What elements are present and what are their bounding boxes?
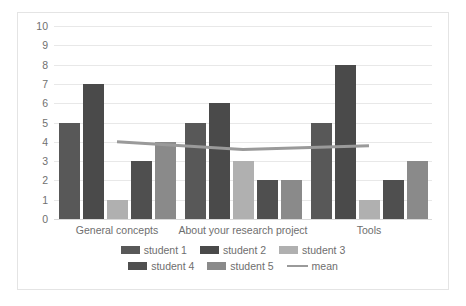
legend-row: student 4student 5mean xyxy=(128,261,338,272)
y-axis-tick-label: 6 xyxy=(42,98,48,109)
legend-color-swatch xyxy=(128,262,147,270)
x-axis-category-label: General concepts xyxy=(76,224,158,236)
y-axis-tick-label: 3 xyxy=(42,156,48,167)
x-axis-category-label: Tools xyxy=(357,224,382,236)
legend-label: student 5 xyxy=(230,261,273,272)
y-axis-tick-label: 4 xyxy=(42,137,48,148)
gridline xyxy=(54,219,432,220)
legend-label: student 4 xyxy=(151,261,194,272)
legend-row: student 1student 2student 3 xyxy=(121,245,346,256)
legend-item[interactable]: student 1 xyxy=(121,245,187,256)
legend-label: student 2 xyxy=(223,245,266,256)
legend-item[interactable]: mean xyxy=(287,261,338,272)
legend-color-swatch xyxy=(200,246,219,254)
legend-item[interactable]: student 2 xyxy=(200,245,266,256)
legend-color-swatch xyxy=(121,246,140,254)
y-axis-tick-label: 7 xyxy=(42,79,48,90)
legend-item[interactable]: student 3 xyxy=(279,245,345,256)
x-axis-category-label: About your research project xyxy=(179,224,308,236)
y-axis-tick-label: 0 xyxy=(42,214,48,225)
legend-item[interactable]: student 4 xyxy=(128,261,194,272)
legend-color-swatch xyxy=(207,262,226,270)
y-axis-tick-label: 1 xyxy=(42,194,48,205)
plot-area: 012345678910 xyxy=(54,26,432,219)
legend-label: student 3 xyxy=(302,245,345,256)
legend-color-swatch xyxy=(279,246,298,254)
chart-container: 012345678910 General conceptsAbout your … xyxy=(17,12,449,290)
legend-label: mean xyxy=(312,261,338,272)
y-axis-tick-label: 10 xyxy=(36,21,48,32)
legend-label: student 1 xyxy=(144,245,187,256)
y-axis-tick-label: 9 xyxy=(42,40,48,51)
mean-line-series xyxy=(54,26,432,219)
legend-item[interactable]: student 5 xyxy=(207,261,273,272)
y-axis-tick-label: 5 xyxy=(42,117,48,128)
mean-line xyxy=(117,142,369,150)
y-axis-tick-label: 2 xyxy=(42,175,48,186)
legend-line-swatch xyxy=(287,265,308,267)
chart-legend: student 1student 2student 3student 4stud… xyxy=(18,245,448,271)
y-axis-tick-label: 8 xyxy=(42,59,48,70)
x-axis-category-labels: General conceptsAbout your research proj… xyxy=(54,224,432,244)
